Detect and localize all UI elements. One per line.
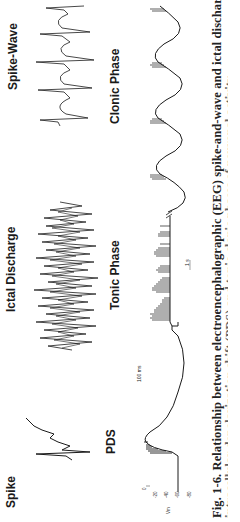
tonic-depolarization (170, 216, 172, 326)
caption-line-2: intracellular depolarization shift (PDS)… (223, 0, 228, 518)
figure-caption: Fig. 1-6. Relationship between electroen… (210, 0, 228, 518)
intracellular-trace (145, 322, 184, 492)
traces-svg (0, 0, 240, 522)
clonic-wave-trace (155, 6, 185, 212)
clonic-spike-bursts (150, 9, 166, 179)
figure: Spike Ictal Discharge Spike-Wave PDS Ton… (0, 0, 240, 522)
page: Spike Ictal Discharge Spike-Wave PDS Ton… (0, 0, 240, 522)
spike-wave-trace (36, 6, 94, 126)
tonic-spike-train (150, 226, 170, 320)
spike-eeg-trace (26, 418, 90, 460)
ictal-discharge-trace (34, 202, 98, 350)
